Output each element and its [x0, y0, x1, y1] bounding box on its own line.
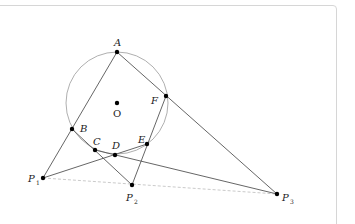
label-p1-sub: 1 — [36, 179, 40, 186]
point-p1 — [41, 176, 45, 180]
label-p1: P — [27, 173, 35, 184]
segment-c-p3 — [95, 150, 277, 194]
label-f: F — [150, 95, 159, 106]
label-p2: P — [125, 192, 133, 203]
geometry-diagram: A B C D E F O P 1 P 2 P 3 — [0, 0, 355, 224]
label-b: B — [79, 123, 87, 134]
point-p3 — [275, 192, 279, 196]
segment-a-p1 — [43, 52, 117, 178]
point-o — [115, 101, 119, 105]
label-p3-sub: 3 — [290, 198, 294, 205]
point-e — [145, 142, 149, 146]
label-d: D — [111, 140, 120, 151]
point-c — [93, 148, 97, 152]
label-e: E — [137, 134, 146, 145]
segment-a-p3 — [117, 52, 277, 194]
label-o: O — [113, 108, 121, 119]
label-a: A — [113, 37, 121, 48]
point-a — [115, 50, 119, 54]
point-f — [164, 94, 168, 98]
point-p2 — [130, 183, 134, 187]
segment-p1-p3-dashed — [43, 178, 277, 194]
point-b — [70, 127, 74, 131]
label-c: C — [93, 136, 101, 147]
point-d — [113, 153, 117, 157]
label-p3: P — [281, 192, 289, 203]
label-p2-sub: 2 — [134, 198, 138, 205]
